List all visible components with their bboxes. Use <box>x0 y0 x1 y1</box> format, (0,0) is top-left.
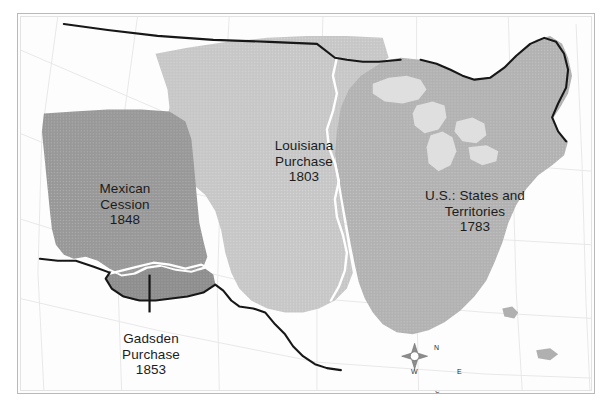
compass-south-label: S <box>435 389 440 394</box>
map-frame: Louisiana Purchase 1803 Mexican Cession … <box>17 13 595 394</box>
compass-west-label: W <box>411 368 418 375</box>
compass-east-label: E <box>457 368 462 375</box>
compass-rose: N E S W <box>410 344 464 394</box>
map-canvas <box>18 14 594 393</box>
map-figure: Louisiana Purchase 1803 Mexican Cession … <box>0 0 608 406</box>
compass-north-label: N <box>434 344 439 351</box>
region-mexican-cession <box>42 109 207 274</box>
